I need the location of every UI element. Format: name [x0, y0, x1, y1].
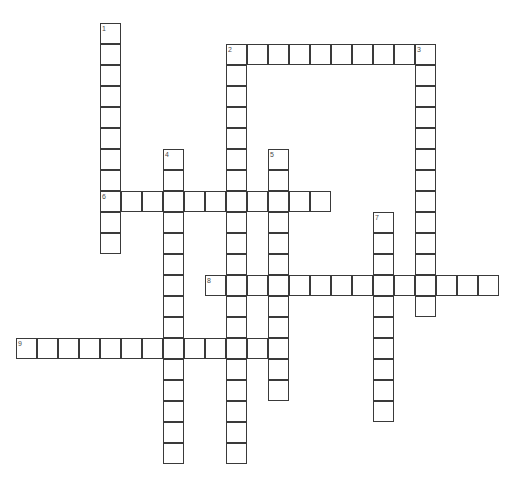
crossword-cell[interactable] — [226, 128, 247, 149]
crossword-cell[interactable] — [352, 44, 373, 65]
crossword-cell[interactable] — [226, 275, 247, 296]
crossword-cell[interactable] — [226, 296, 247, 317]
crossword-cell[interactable] — [163, 275, 184, 296]
crossword-cell[interactable] — [436, 275, 457, 296]
crossword-cell[interactable] — [268, 254, 289, 275]
crossword-cell[interactable] — [100, 170, 121, 191]
crossword-cell[interactable] — [247, 44, 268, 65]
crossword-cell[interactable] — [226, 359, 247, 380]
crossword-cell[interactable] — [373, 254, 394, 275]
crossword-cell[interactable] — [394, 44, 415, 65]
crossword-cell[interactable] — [226, 443, 247, 464]
crossword-cell[interactable] — [310, 191, 331, 212]
crossword-cell[interactable] — [226, 86, 247, 107]
crossword-cell[interactable] — [373, 44, 394, 65]
crossword-cell[interactable] — [331, 275, 352, 296]
crossword-cell[interactable] — [100, 149, 121, 170]
crossword-cell[interactable] — [226, 338, 247, 359]
crossword-cell[interactable] — [100, 107, 121, 128]
crossword-cell[interactable] — [100, 23, 121, 44]
crossword-cell[interactable] — [415, 65, 436, 86]
crossword-grid[interactable]: 123456789 — [0, 0, 505, 477]
crossword-cell[interactable] — [247, 275, 268, 296]
crossword-cell[interactable] — [184, 338, 205, 359]
crossword-cell[interactable] — [226, 233, 247, 254]
crossword-cell[interactable] — [268, 275, 289, 296]
crossword-cell[interactable] — [415, 149, 436, 170]
crossword-cell[interactable] — [373, 380, 394, 401]
crossword-cell[interactable] — [415, 212, 436, 233]
crossword-cell[interactable] — [373, 359, 394, 380]
crossword-cell[interactable] — [226, 401, 247, 422]
crossword-cell[interactable] — [289, 191, 310, 212]
crossword-cell[interactable] — [226, 254, 247, 275]
crossword-cell[interactable] — [163, 317, 184, 338]
crossword-cell[interactable] — [16, 338, 37, 359]
crossword-cell[interactable] — [37, 338, 58, 359]
crossword-cell[interactable] — [163, 338, 184, 359]
crossword-cell[interactable] — [226, 44, 247, 65]
crossword-cell[interactable] — [289, 44, 310, 65]
crossword-cell[interactable] — [373, 338, 394, 359]
crossword-cell[interactable] — [163, 380, 184, 401]
crossword-cell[interactable] — [289, 275, 310, 296]
crossword-cell[interactable] — [100, 44, 121, 65]
crossword-cell[interactable] — [100, 86, 121, 107]
crossword-cell[interactable] — [415, 44, 436, 65]
crossword-cell[interactable] — [163, 149, 184, 170]
crossword-cell[interactable] — [415, 128, 436, 149]
crossword-cell[interactable] — [373, 317, 394, 338]
crossword-cell[interactable] — [100, 233, 121, 254]
crossword-cell[interactable] — [373, 212, 394, 233]
crossword-cell[interactable] — [163, 443, 184, 464]
crossword-cell[interactable] — [415, 233, 436, 254]
crossword-cell[interactable] — [226, 212, 247, 233]
crossword-cell[interactable] — [247, 338, 268, 359]
crossword-cell[interactable] — [331, 44, 352, 65]
crossword-cell[interactable] — [163, 170, 184, 191]
crossword-cell[interactable] — [415, 296, 436, 317]
crossword-cell[interactable] — [79, 338, 100, 359]
crossword-cell[interactable] — [226, 380, 247, 401]
crossword-cell[interactable] — [142, 191, 163, 212]
crossword-cell[interactable] — [268, 233, 289, 254]
crossword-cell[interactable] — [268, 191, 289, 212]
crossword-cell[interactable] — [226, 170, 247, 191]
crossword-cell[interactable] — [163, 296, 184, 317]
crossword-cell[interactable] — [268, 296, 289, 317]
crossword-cell[interactable] — [478, 275, 499, 296]
crossword-cell[interactable] — [268, 170, 289, 191]
crossword-cell[interactable] — [247, 191, 268, 212]
crossword-cell[interactable] — [205, 191, 226, 212]
crossword-cell[interactable] — [415, 170, 436, 191]
crossword-cell[interactable] — [415, 107, 436, 128]
crossword-cell[interactable] — [226, 149, 247, 170]
crossword-cell[interactable] — [268, 317, 289, 338]
crossword-cell[interactable] — [415, 275, 436, 296]
crossword-cell[interactable] — [268, 44, 289, 65]
crossword-cell[interactable] — [310, 44, 331, 65]
crossword-cell[interactable] — [142, 338, 163, 359]
crossword-cell[interactable] — [100, 338, 121, 359]
crossword-cell[interactable] — [100, 65, 121, 86]
crossword-cell[interactable] — [226, 65, 247, 86]
crossword-cell[interactable] — [310, 275, 331, 296]
crossword-cell[interactable] — [100, 128, 121, 149]
crossword-cell[interactable] — [163, 191, 184, 212]
crossword-cell[interactable] — [58, 338, 79, 359]
crossword-cell[interactable] — [163, 422, 184, 443]
crossword-cell[interactable] — [100, 212, 121, 233]
crossword-cell[interactable] — [205, 338, 226, 359]
crossword-cell[interactable] — [373, 275, 394, 296]
crossword-cell[interactable] — [352, 275, 373, 296]
crossword-cell[interactable] — [226, 191, 247, 212]
crossword-cell[interactable] — [373, 233, 394, 254]
crossword-cell[interactable] — [373, 296, 394, 317]
crossword-cell[interactable] — [163, 233, 184, 254]
crossword-cell[interactable] — [415, 191, 436, 212]
crossword-cell[interactable] — [121, 191, 142, 212]
crossword-cell[interactable] — [226, 422, 247, 443]
crossword-cell[interactable] — [415, 86, 436, 107]
crossword-cell[interactable] — [394, 275, 415, 296]
crossword-cell[interactable] — [373, 401, 394, 422]
